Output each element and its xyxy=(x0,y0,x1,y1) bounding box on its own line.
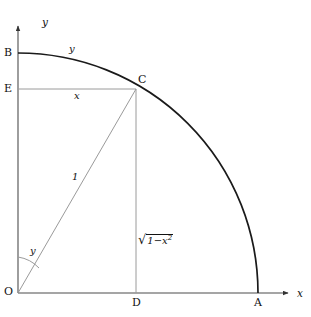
radical-body: 1−x2 xyxy=(146,234,173,247)
segment-OC xyxy=(18,89,136,293)
radius-length-label: 1 xyxy=(72,172,78,182)
radical-exponent: 2 xyxy=(168,234,172,242)
y-axis-label: y xyxy=(42,17,48,28)
diagram-canvas xyxy=(0,0,311,317)
point-label-A: A xyxy=(254,297,262,308)
angle-label: y xyxy=(30,246,36,256)
radical-minus-sign: − xyxy=(154,235,162,246)
segment-x-label: x xyxy=(74,91,80,101)
radical-sign-icon: √ xyxy=(138,233,146,246)
point-label-C: C xyxy=(138,74,146,85)
arc-length-label: y xyxy=(69,44,75,54)
segment-cd-length-label: √ 1−x2 xyxy=(138,234,173,247)
point-label-D: D xyxy=(132,297,141,308)
point-label-B: B xyxy=(4,47,12,58)
point-label-O: O xyxy=(4,286,13,297)
geometry-figure: y x O A B C D E y x 1 y √ 1−x2 xyxy=(0,0,311,317)
x-axis-label: x xyxy=(297,288,303,299)
point-label-E: E xyxy=(4,83,12,94)
